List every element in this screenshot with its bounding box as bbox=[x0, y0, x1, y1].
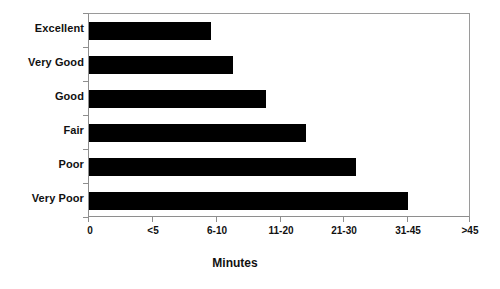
x-axis-label-1: <5 bbox=[123, 225, 183, 237]
bar-excellent bbox=[89, 22, 211, 40]
y-axis-label-very-good: Very Good bbox=[6, 56, 84, 68]
y-axis-label-poor: Poor bbox=[6, 158, 84, 170]
y-axis-label-fair: Fair bbox=[6, 124, 84, 136]
y-axis-label-excellent: Excellent bbox=[6, 22, 84, 34]
bar-row-excellent bbox=[89, 14, 469, 48]
x-axis-label-0: 0 bbox=[60, 225, 120, 237]
x-axis-label-3: 11-20 bbox=[251, 225, 311, 237]
x-axis-label-4: 21-30 bbox=[314, 225, 374, 237]
bar-poor bbox=[89, 158, 356, 176]
bar-very-good bbox=[89, 56, 233, 74]
x-axis-title: Minutes bbox=[0, 256, 500, 270]
y-axis-label-very-poor: Very Poor bbox=[6, 192, 84, 204]
x-axis-tick-3 bbox=[280, 217, 281, 222]
bar-good bbox=[89, 90, 266, 108]
x-axis-tick-1 bbox=[152, 217, 153, 222]
x-axis-tick-5 bbox=[407, 217, 408, 222]
x-axis-label-6: >45 bbox=[440, 225, 500, 237]
x-axis-tick-2 bbox=[216, 217, 217, 222]
bar-fair bbox=[89, 124, 306, 142]
y-axis-label-good: Good bbox=[6, 90, 84, 102]
x-axis-tick-6 bbox=[469, 217, 470, 222]
bar-row-very-poor bbox=[89, 184, 469, 218]
x-axis-title-text: Minutes bbox=[212, 256, 257, 270]
bar-very-poor bbox=[89, 192, 408, 210]
y-axis-labels: Excellent Very Good Good Fair Poor Very … bbox=[0, 13, 84, 217]
bar-row-very-good bbox=[89, 48, 469, 82]
x-axis-tick-0 bbox=[88, 217, 89, 222]
plot-area bbox=[88, 13, 470, 217]
x-axis-label-5: 31-45 bbox=[378, 225, 438, 237]
bar-row-fair bbox=[89, 116, 469, 150]
bar-chart: Excellent Very Good Good Fair Poor Very … bbox=[0, 0, 500, 289]
bar-row-poor bbox=[89, 150, 469, 184]
x-axis-tick-4 bbox=[343, 217, 344, 222]
x-axis-label-2: 6-10 bbox=[187, 225, 247, 237]
bar-row-good bbox=[89, 82, 469, 116]
